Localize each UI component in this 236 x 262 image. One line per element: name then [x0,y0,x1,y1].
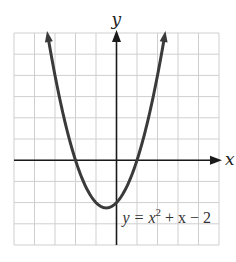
equation-lhs: y = x [121,209,156,227]
x-axis-label: x [225,149,235,169]
y-axis-label: y [111,9,122,29]
parabola-graph: x y y = x2 + x − 2 [0,0,236,262]
x-axis-arrow-icon [210,156,222,165]
equation-rhs: + x − 2 [161,209,211,226]
equation-label: y = x2 + x − 2 [121,206,212,227]
parabola-curve [48,38,164,208]
y-axis-arrow-icon [112,30,121,42]
